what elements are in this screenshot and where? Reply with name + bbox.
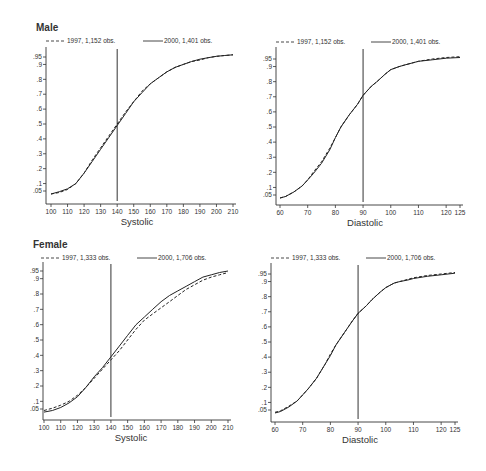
x-tick-label: 90 — [354, 426, 362, 433]
legend: 1997, 1,152 obs.2000, 1,401 obs. — [46, 37, 213, 44]
x-tick-label: 170 — [161, 208, 172, 215]
x-tick-label: 110 — [413, 209, 424, 216]
x-tick-label: 200 — [206, 424, 217, 431]
x-tick-label: 210 — [228, 208, 239, 215]
x-tick-label: 60 — [276, 209, 284, 216]
y-tick-label: .9 — [34, 275, 40, 282]
y-tick-label: .7 — [34, 306, 40, 313]
y-tick-label: .5 — [34, 336, 40, 343]
chart-panel-male-systolic: Male1997, 1,152 obs.2000, 1,401 obs..05.… — [33, 22, 239, 227]
x-tick-label: 210 — [223, 424, 234, 431]
y-tick-label: .4 — [34, 352, 40, 359]
x-tick-label: 180 — [178, 208, 189, 215]
y-tick-label: .05 — [258, 406, 267, 413]
series-2000-line — [44, 271, 228, 412]
x-axis-label: Systolic — [115, 432, 148, 443]
legend-label-2000: 2000, 1,706 obs. — [158, 254, 207, 261]
x-tick-label: 170 — [156, 424, 167, 431]
legend: 1997, 1,152 obs.2000, 1,401 obs. — [276, 38, 441, 45]
y-tick-label: .95 — [30, 267, 39, 274]
series-2000-line — [280, 58, 460, 199]
x-tick-label: 160 — [145, 208, 156, 215]
x-tick-label: 130 — [95, 208, 106, 215]
series-1997-line — [44, 273, 228, 411]
y-tick-label: .4 — [37, 135, 43, 142]
x-tick-label: 70 — [304, 209, 312, 216]
y-tick-label: .7 — [262, 308, 268, 315]
x-tick-label: 125 — [455, 209, 466, 216]
x-tick-label: 120 — [79, 208, 90, 215]
x-tick-label: 140 — [105, 424, 116, 431]
y-tick-label: .8 — [262, 293, 268, 300]
x-tick-label: 120 — [436, 426, 447, 433]
x-tick-label: 100 — [385, 209, 396, 216]
figure-canvas: Male1997, 1,152 obs.2000, 1,401 obs..05.… — [0, 0, 486, 471]
y-tick-label: .2 — [37, 165, 43, 172]
x-tick-label: 190 — [194, 208, 205, 215]
x-tick-label: 110 — [408, 426, 419, 433]
x-axis-label: Diastolic — [342, 434, 378, 445]
y-tick-label: .7 — [37, 90, 43, 97]
series-2000-line — [51, 55, 233, 194]
y-tick-label: .4 — [267, 138, 273, 145]
x-tick-label: 150 — [128, 208, 139, 215]
y-tick-label: .5 — [262, 338, 268, 345]
panel-title: Male — [36, 22, 59, 33]
y-tick-label: .95 — [263, 55, 272, 62]
y-tick-label: .7 — [267, 93, 273, 100]
x-tick-label: 100 — [46, 208, 57, 215]
x-tick-label: 140 — [112, 208, 123, 215]
y-tick-label: .5 — [267, 123, 273, 130]
series-1997-line — [280, 57, 460, 198]
series-1997-line — [275, 273, 455, 413]
legend-label-1997: 1997, 1,152 obs. — [67, 37, 116, 44]
series-2000-line — [275, 273, 455, 413]
legend-label-1997: 1997, 1,333 obs. — [62, 254, 111, 261]
y-tick-label: .4 — [262, 353, 268, 360]
x-tick-label: 100 — [39, 424, 50, 431]
x-tick-label: 125 — [450, 426, 461, 433]
legend-label-2000: 2000, 1,401 obs. — [392, 38, 441, 45]
y-tick-label: .6 — [34, 321, 40, 328]
chart-panel-female-diastolic: 1997, 1,333 obs.2000, 1,706 obs..05.1.2.… — [258, 254, 461, 445]
y-tick-label: .5 — [37, 120, 43, 127]
y-tick-label: .6 — [267, 108, 273, 115]
x-tick-label: 130 — [89, 424, 100, 431]
legend: 1997, 1,333 obs.2000, 1,706 obs. — [41, 254, 207, 261]
x-tick-label: 160 — [139, 424, 150, 431]
x-tick-label: 120 — [441, 209, 452, 216]
y-tick-label: .95 — [258, 270, 267, 277]
y-tick-label: .8 — [34, 290, 40, 297]
x-axis-label: Diastolic — [347, 217, 383, 228]
y-tick-label: .05 — [30, 405, 39, 412]
y-tick-label: .05 — [263, 191, 272, 198]
x-tick-label: 70 — [299, 426, 307, 433]
x-tick-label: 120 — [72, 424, 83, 431]
y-tick-label: .1 — [37, 180, 43, 187]
y-tick-label: .6 — [37, 105, 43, 112]
x-tick-label: 180 — [172, 424, 183, 431]
x-axis-label: Systolic — [121, 216, 154, 227]
y-tick-label: .95 — [33, 53, 42, 60]
y-tick-label: .8 — [267, 78, 273, 85]
chart-panel-female-systolic: Female1997, 1,333 obs.2000, 1,706 obs..0… — [30, 239, 234, 443]
y-tick-label: .8 — [37, 76, 43, 83]
y-tick-label: .9 — [37, 61, 43, 68]
y-tick-label: .9 — [262, 278, 268, 285]
y-tick-label: .3 — [37, 150, 43, 157]
x-tick-label: 110 — [56, 424, 67, 431]
y-tick-label: .1 — [267, 184, 273, 191]
legend-label-1997: 1997, 1,152 obs. — [297, 38, 346, 45]
y-tick-label: .05 — [33, 187, 42, 194]
x-tick-label: 190 — [189, 424, 200, 431]
panel-title: Female — [33, 239, 68, 250]
x-tick-label: 110 — [62, 208, 73, 215]
y-tick-label: .2 — [262, 384, 268, 391]
y-tick-label: .2 — [267, 169, 273, 176]
x-tick-label: 200 — [211, 208, 222, 215]
x-tick-label: 80 — [327, 426, 335, 433]
series-1997-line — [51, 55, 233, 194]
legend-label-2000: 2000, 1,706 obs. — [387, 254, 436, 261]
legend: 1997, 1,333 obs.2000, 1,706 obs. — [271, 254, 436, 261]
x-tick-label: 100 — [380, 426, 391, 433]
